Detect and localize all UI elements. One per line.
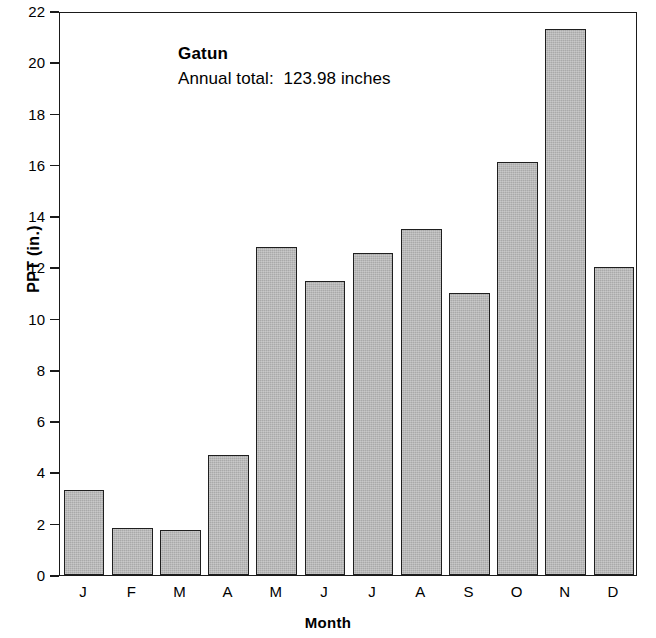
- bar-J-5: [305, 281, 346, 575]
- y-tick-label: 18: [28, 105, 45, 125]
- y-tick-mark: [50, 114, 59, 116]
- bar-M-4: [256, 247, 297, 575]
- x-tick-label-9: O: [493, 582, 541, 602]
- plot-area: Gatun Annual total: 123.98 inches: [59, 12, 637, 576]
- bar-F-1: [112, 528, 153, 575]
- bar-N-10: [545, 29, 586, 575]
- y-tick-label: 4: [37, 463, 45, 483]
- y-tick-label: 20: [28, 53, 45, 73]
- y-tick-label: 16: [28, 156, 45, 176]
- x-tick-label-2: M: [155, 582, 203, 602]
- precipitation-bar-chart: PPT (in.) 0246810121416182022 Gatun Annu…: [0, 0, 656, 638]
- y-tick-mark: [50, 11, 59, 13]
- x-tick-label-11: D: [589, 582, 637, 602]
- y-tick-mark: [50, 319, 59, 321]
- bar-M-2: [160, 530, 201, 575]
- bar-O-9: [497, 162, 538, 575]
- x-tick-label-5: J: [300, 582, 348, 602]
- y-tick-label: 14: [28, 207, 45, 227]
- bar-J-6: [353, 253, 394, 575]
- y-tick-mark: [50, 216, 59, 218]
- y-tick-label: 6: [37, 412, 45, 432]
- x-tick-label-7: A: [396, 582, 444, 602]
- x-axis-title: Month: [0, 614, 656, 631]
- bar-A-7: [401, 229, 442, 575]
- y-tick-label: 22: [28, 2, 45, 22]
- annual-total-label: Annual total: 123.98 inches: [178, 68, 391, 90]
- y-tick-mark: [50, 62, 59, 64]
- x-tick-label-8: S: [444, 582, 492, 602]
- y-tick-label: 10: [28, 310, 45, 330]
- x-tick-label-6: J: [348, 582, 396, 602]
- bar-S-8: [449, 293, 490, 575]
- x-tick-label-10: N: [541, 582, 589, 602]
- y-tick-mark: [50, 421, 59, 423]
- y-tick-mark: [50, 575, 59, 577]
- y-tick-label: 12: [28, 258, 45, 278]
- x-tick-label-1: F: [107, 582, 155, 602]
- y-tick-mark: [50, 165, 59, 167]
- x-tick-label-4: M: [252, 582, 300, 602]
- bar-D-11: [594, 267, 635, 575]
- y-tick-label: 0: [37, 566, 45, 586]
- bar-A-3: [208, 455, 249, 575]
- station-name-label: Gatun: [178, 43, 391, 65]
- y-tick-mark: [50, 524, 59, 526]
- chart-annotation: Gatun Annual total: 123.98 inches: [178, 43, 391, 91]
- y-tick-label: 8: [37, 361, 45, 381]
- y-tick-mark: [50, 370, 59, 372]
- x-tick-label-3: A: [204, 582, 252, 602]
- y-tick-label: 2: [37, 515, 45, 535]
- y-tick-mark: [50, 267, 59, 269]
- x-tick-label-0: J: [59, 582, 107, 602]
- bar-J-0: [64, 490, 105, 575]
- y-tick-mark: [50, 472, 59, 474]
